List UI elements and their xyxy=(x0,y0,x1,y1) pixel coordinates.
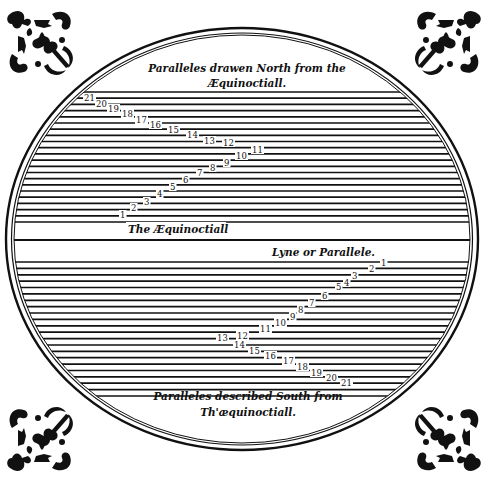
south-latitude-number: 14 xyxy=(234,340,245,350)
south-caption-line-1: Paralleles described South from xyxy=(152,390,342,402)
south-latitude-number: 16 xyxy=(265,351,276,361)
north-caption-line-2: Æquinoctiall. xyxy=(206,77,286,89)
north-latitude-number: 6 xyxy=(183,175,188,185)
north-latitude-number: 19 xyxy=(108,104,119,114)
north-latitude-number: 2 xyxy=(131,203,136,213)
north-latitude-number: 18 xyxy=(122,109,133,119)
south-latitude-number: 11 xyxy=(260,324,271,334)
woodcut-diagram: Paralleles drawen North from the Æquinoc… xyxy=(0,0,488,481)
corner-ornament-top-right xyxy=(415,11,481,75)
south-latitude-number: 4 xyxy=(344,278,349,288)
north-latitude-number: 5 xyxy=(170,182,175,192)
north-latitude-number: 8 xyxy=(210,163,215,173)
parallel-label: Lyne or Parallele. xyxy=(271,246,375,258)
north-latitude-number: 7 xyxy=(197,168,202,178)
south-latitude-number: 13 xyxy=(217,333,228,343)
south-latitude-number: 6 xyxy=(322,291,327,301)
north-caption-line-1: Paralleles drawen North from the xyxy=(147,62,346,74)
north-latitude-number: 20 xyxy=(96,99,107,109)
north-latitude-number: 14 xyxy=(187,130,198,140)
parallel-lines xyxy=(0,92,488,396)
south-caption-line-2: Th'æquinoctiall. xyxy=(200,406,296,418)
north-latitude-number: 4 xyxy=(157,189,162,199)
south-latitude-number: 18 xyxy=(297,362,308,372)
north-latitude-number: 13 xyxy=(204,136,215,146)
north-latitude-number: 9 xyxy=(224,158,229,168)
south-latitude-number: 3 xyxy=(352,271,357,281)
north-latitude-numbers: 123456789101112131415161718192021 xyxy=(83,93,264,220)
north-latitude-number: 10 xyxy=(236,151,247,161)
corner-ornament-top-left xyxy=(7,11,73,75)
south-latitude-number: 8 xyxy=(298,305,303,315)
north-latitude-number: 3 xyxy=(144,197,149,207)
south-latitude-number: 5 xyxy=(336,282,341,292)
south-latitude-numbers: 123456789101112131415161718192021 xyxy=(216,258,388,388)
south-latitude-number: 9 xyxy=(290,312,295,322)
north-latitude-number: 15 xyxy=(168,125,179,135)
equator-label: The Æquinoctiall xyxy=(128,223,228,235)
south-latitude-number: 17 xyxy=(283,356,294,366)
south-latitude-number: 1 xyxy=(381,258,386,268)
corner-ornament-bottom-right xyxy=(415,407,481,471)
diagram-canvas: Paralleles drawen North from the Æquinoc… xyxy=(0,0,488,481)
south-latitude-number: 2 xyxy=(369,264,374,274)
north-latitude-number: 16 xyxy=(150,120,161,130)
north-latitude-number: 1 xyxy=(120,210,125,220)
north-latitude-number: 17 xyxy=(136,115,147,125)
north-latitude-number: 12 xyxy=(223,138,234,148)
south-latitude-number: 7 xyxy=(309,298,314,308)
south-latitude-number: 21 xyxy=(341,378,352,388)
south-latitude-number: 10 xyxy=(275,318,286,328)
north-latitude-number: 11 xyxy=(252,145,263,155)
south-latitude-number: 19 xyxy=(311,368,322,378)
south-latitude-number: 15 xyxy=(249,346,260,356)
corner-ornament-bottom-left xyxy=(7,407,73,471)
south-latitude-number: 20 xyxy=(326,373,337,383)
north-latitude-number: 21 xyxy=(84,93,95,103)
